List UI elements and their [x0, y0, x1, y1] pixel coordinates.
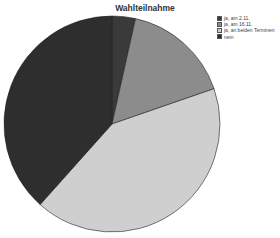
legend-swatch-icon	[217, 16, 222, 21]
chart-legend: ja, am 2.11. ja, am 16.11. ja, an beiden…	[217, 15, 275, 40]
legend-swatch-icon	[217, 22, 222, 27]
legend-swatch-icon	[217, 28, 222, 33]
legend-swatch-icon	[217, 34, 222, 39]
legend-label: nein	[224, 34, 233, 40]
legend-item-nein: nein	[217, 34, 275, 40]
